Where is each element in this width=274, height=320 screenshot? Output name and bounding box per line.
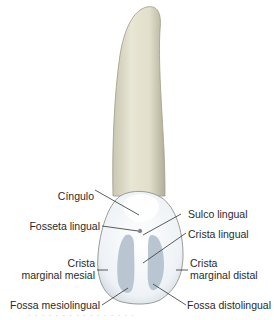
label-crista-marginal-mesial-1: Crista [0,257,95,269]
label-fossa-distolingual: Fossa distolingual [187,299,271,311]
tooth-diagram: Cíngulo Fosseta lingual Crista marginal … [0,0,274,320]
figure-caption: · · · · · · · · · · · · · · · · [28,311,135,320]
label-crista-marginal-distal-2: marginal distal [190,269,258,281]
label-crista-marginal-mesial-2: marginal mesial [0,269,95,281]
label-fosseta-lingual: Fosseta lingual [0,220,100,232]
label-crista-marginal-distal-1: Crista [190,257,217,269]
label-sulco-lingual: Sulco lingual [188,208,248,220]
label-fossa-mesiolingual: Fossa mesiolingual [0,299,100,311]
tooth-root [113,7,165,196]
label-crista-lingual: Crista lingual [188,228,249,240]
fosseta-lingual-pit [138,229,143,234]
label-cingulo: Cíngulo [24,190,94,202]
